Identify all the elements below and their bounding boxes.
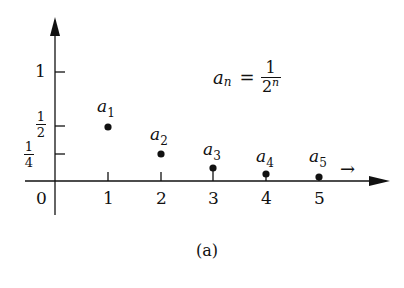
point-label-a4: a4	[256, 148, 274, 165]
label-base: a	[203, 139, 213, 159]
formula-denominator: 2n	[262, 79, 279, 95]
x-tick-label-1: 1	[103, 190, 114, 207]
denominator-exponent: n	[272, 76, 279, 89]
point-label-a5: a5	[309, 148, 327, 165]
label-base: a	[150, 124, 160, 144]
x-tick-label-4: 4	[261, 190, 272, 207]
point-label-a2: a2	[150, 126, 168, 143]
label-subscript: 5	[319, 156, 327, 170]
formula-lhs-subscript: n	[224, 75, 232, 89]
figure-caption: (a)	[196, 243, 218, 259]
formula-numerator: 1	[265, 60, 275, 76]
formula-lhs: a	[213, 67, 224, 88]
fraction-denominator: 4	[25, 156, 33, 169]
formula-fraction: 1 2n	[261, 60, 281, 95]
fraction-numerator: 1	[37, 110, 45, 123]
y-tick-label-half: 1 2	[36, 110, 46, 139]
x-tick-label-5: 5	[314, 190, 325, 207]
data-point-a3	[209, 164, 216, 171]
denominator-base: 2	[262, 77, 272, 96]
label-subscript: 3	[213, 149, 221, 163]
data-point-a4	[262, 170, 269, 177]
y-tick-label-1: 1	[35, 63, 46, 80]
data-point-a2	[157, 150, 164, 157]
point-label-a3: a3	[203, 141, 221, 158]
x-tick-label-2: 2	[156, 190, 167, 207]
data-point-a1	[104, 123, 111, 130]
label-subscript: 4	[266, 156, 274, 170]
y-axis-arrowhead-icon	[50, 17, 60, 36]
fraction-numerator: 1	[25, 140, 33, 153]
fraction-denominator: 2	[37, 126, 45, 139]
label-subscript: 1	[107, 106, 115, 120]
y-tick-label-quarter: 1 4	[24, 140, 34, 169]
sequence-formula: an = 1 2n	[213, 60, 281, 95]
x-axis-arrowhead-icon	[369, 176, 390, 186]
label-subscript: 2	[160, 134, 168, 148]
label-base: a	[97, 96, 107, 116]
point-label-a1: a1	[97, 98, 115, 115]
formula-equals: =	[239, 67, 254, 88]
x-tick-label-3: 3	[208, 190, 219, 207]
label-base: a	[309, 146, 319, 166]
data-point-a5	[315, 173, 322, 180]
continuation-arrow-icon: →	[340, 160, 355, 178]
x-tick-label-0: 0	[36, 190, 47, 207]
label-base: a	[256, 146, 266, 166]
